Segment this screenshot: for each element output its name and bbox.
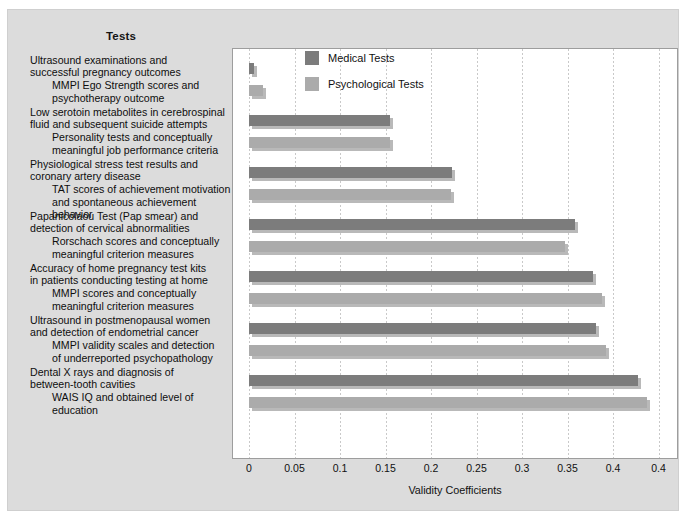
bar-body: [249, 115, 390, 126]
legend-item-psychological[interactable]: Psychological Tests: [305, 77, 424, 91]
bar-psychological-tests-4: [249, 293, 602, 304]
bar-medical-tests-6: [249, 375, 638, 386]
psychological-test-label-3: Rorschach scores and conceptually meanin…: [52, 235, 238, 259]
bar-psychological-tests-5: [249, 345, 606, 356]
bar-psychological-tests-1: [249, 137, 390, 148]
bar-shadow-bottom: [252, 148, 393, 151]
test-group-3: Papanicolaou Test (Pap smear) and detect…: [30, 210, 238, 260]
tests-column-heading: Tests: [106, 30, 136, 42]
bar-body: [249, 345, 606, 356]
test-group-4: Accuracy of home pregnancy test kits in …: [30, 262, 238, 312]
bar-shadow-bottom: [252, 200, 454, 203]
plot-frame: [232, 48, 678, 459]
bar-body: [249, 241, 565, 252]
bar-body: [249, 293, 602, 304]
x-tick-label-8: 0.4: [606, 462, 621, 474]
x-tick-label-7: 0.35: [557, 462, 577, 474]
psychological-test-label-1: Personality tests and conceptually meani…: [52, 131, 238, 155]
bar-body: [249, 137, 390, 148]
bar-medical-tests-0: [249, 63, 254, 74]
bar-body: [249, 271, 593, 282]
medical-test-label-0: Ultrasound examinations and successful p…: [30, 54, 238, 78]
x-tick-label-1: 0.05: [284, 462, 304, 474]
x-tick-label-9: 0.4: [651, 462, 666, 474]
test-label-column: Tests Ultrasound examinations and succes…: [20, 24, 235, 494]
psychological-test-label-4: MMPI scores and conceptually meaningful …: [52, 287, 238, 311]
medical-test-label-2: Physiological stress test results and co…: [30, 158, 238, 182]
bar-body: [249, 375, 638, 386]
plot-area: [233, 49, 677, 458]
bar-shadow-bottom: [252, 230, 578, 233]
bar-shadow-bottom: [252, 74, 257, 77]
bar-psychological-tests-2: [249, 189, 451, 200]
psychological-test-label-0: MMPI Ego Strength scores and psychothera…: [52, 79, 238, 103]
test-group-1: Low serotoin metabolites in cerebrospina…: [30, 106, 238, 156]
gridline-x-9: [659, 49, 660, 458]
legend-label-psychological: Psychological Tests: [328, 78, 424, 90]
x-tick-label-4: 0.2: [424, 462, 439, 474]
x-tick-label-6: 0.3: [515, 462, 530, 474]
bar-body: [249, 397, 647, 408]
bar-shadow-bottom: [252, 282, 596, 285]
legend-item-medical[interactable]: Medical Tests: [305, 51, 424, 65]
psychological-test-label-5: MMPI validity scales and detection of un…: [52, 339, 238, 363]
bar-body: [249, 323, 596, 334]
figure-panel: Tests Ultrasound examinations and succes…: [8, 10, 678, 510]
bar-medical-tests-1: [249, 115, 390, 126]
x-axis-title: Validity Coefficients: [232, 484, 678, 496]
bar-medical-tests-3: [249, 219, 575, 230]
psychological-test-label-6: WAIS IQ and obtained level of education: [52, 391, 238, 415]
bar-shadow-bottom: [252, 386, 641, 389]
medical-test-label-4: Accuracy of home pregnancy test kits in …: [30, 262, 238, 286]
x-axis-ticks: 00.050.10.150.20.250.30.350.40.4: [232, 462, 678, 476]
bar-body: [249, 85, 263, 96]
bar-shadow-bottom: [252, 126, 393, 129]
bar-body: [249, 219, 575, 230]
test-group-0: Ultrasound examinations and successful p…: [30, 54, 238, 104]
medical-test-label-5: Ultrasound in postmenopausal women and d…: [30, 314, 238, 338]
bar-shadow-bottom: [252, 252, 568, 255]
bar-medical-tests-4: [249, 271, 593, 282]
x-tick-label-5: 0.25: [466, 462, 486, 474]
chart-legend: Medical TestsPsychological Tests: [305, 51, 424, 103]
bar-shadow-bottom: [252, 356, 609, 359]
bar-shadow-bottom: [252, 178, 455, 181]
bar-psychological-tests-3: [249, 241, 565, 252]
bar-medical-tests-2: [249, 167, 452, 178]
legend-label-medical: Medical Tests: [328, 52, 394, 64]
x-tick-label-3: 0.15: [375, 462, 395, 474]
legend-swatch-medical: [305, 51, 319, 65]
bar-shadow-bottom: [252, 408, 650, 411]
medical-test-label-3: Papanicolaou Test (Pap smear) and detect…: [30, 210, 238, 234]
x-tick-label-0: 0: [246, 462, 252, 474]
bar-shadow-bottom: [252, 334, 599, 337]
x-tick-label-2: 0.1: [333, 462, 348, 474]
legend-swatch-psychological: [305, 77, 319, 91]
bar-shadow-bottom: [252, 304, 605, 307]
bar-body: [249, 167, 452, 178]
test-group-5: Ultrasound in postmenopausal women and d…: [30, 314, 238, 364]
bar-body: [249, 189, 451, 200]
bar-shadow-bottom: [252, 96, 266, 99]
test-group-6: Dental X rays and diagnosis of between-t…: [30, 366, 238, 416]
medical-test-label-1: Low serotoin metabolites in cerebrospina…: [30, 106, 238, 130]
bar-psychological-tests-0: [249, 85, 263, 96]
medical-test-label-6: Dental X rays and diagnosis of between-t…: [30, 366, 238, 390]
bar-medical-tests-5: [249, 323, 596, 334]
bar-psychological-tests-6: [249, 397, 647, 408]
